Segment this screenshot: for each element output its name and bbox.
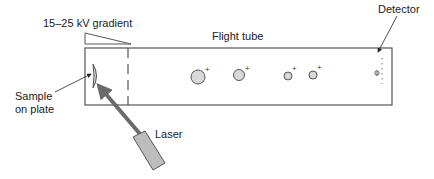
ion-icon: + [191, 65, 210, 84]
flight-tube-label: Flight tube [212, 30, 263, 43]
svg-text:+: + [292, 64, 297, 73]
laser-beam-arrow [99, 86, 140, 134]
detector-icon [375, 58, 382, 84]
gradient-label: 15–25 kV gradient [43, 17, 132, 30]
ion-icon: + [284, 64, 297, 80]
svg-text:+: + [317, 63, 322, 72]
sample-label-line1: Sample [15, 90, 52, 103]
ion-icon: + [234, 64, 251, 81]
gradient-wedge-icon [85, 33, 131, 44]
detector-pointer-arrow [378, 16, 397, 52]
svg-text:+: + [205, 65, 210, 74]
ion-icon: + [309, 63, 322, 79]
sample-label-line2: on plate [15, 103, 54, 116]
svg-text:+: + [245, 64, 250, 73]
ions: + + + + [191, 63, 322, 84]
sample-plate-icon [93, 64, 97, 88]
laser-label: Laser [155, 128, 183, 141]
detector-label: Detector [378, 3, 420, 16]
